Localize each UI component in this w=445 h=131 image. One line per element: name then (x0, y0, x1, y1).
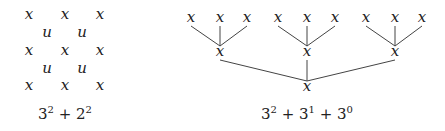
tree-leaf-node: x (418, 10, 426, 25)
tree-leaf-node: x (274, 10, 282, 25)
tree-leaf-node: x (331, 10, 339, 25)
caption-base: 2 (76, 105, 86, 123)
grid-node-x: x (96, 43, 104, 58)
grid-node-x: x (61, 78, 69, 93)
tree-leaf-node: x (391, 10, 399, 25)
tree-edge (220, 26, 247, 46)
right-caption: 32 + 31 + 30 (261, 104, 353, 123)
tree-leaf-node: x (303, 10, 311, 25)
tree-leaf-node: x (216, 10, 224, 25)
tree-edge (307, 60, 395, 81)
tree-leaf-node: x (362, 10, 370, 25)
caption-base: 3 (38, 105, 48, 123)
left-caption: 32 + 22 (38, 104, 92, 123)
tree-parent-node: x (216, 44, 224, 59)
grid-node-u: u (42, 61, 52, 76)
tree-parent-node: x (391, 44, 399, 59)
caption-base: 3 (261, 105, 271, 123)
grid-node-x: x (25, 7, 33, 22)
tree-edge (220, 60, 307, 81)
caption-base: 3 (299, 105, 309, 123)
caption-base: 3 (337, 105, 347, 123)
grid-node-x: x (96, 7, 104, 22)
tree-parent-node: x (303, 44, 311, 59)
grid-node-u: u (77, 25, 87, 40)
grid-node-x: x (61, 7, 69, 22)
caption-exponent: 0 (347, 104, 353, 115)
caption-plus: + (54, 105, 76, 123)
tree-leaf-node: x (187, 10, 195, 25)
grid-node-x: x (61, 43, 69, 58)
tree-leaf-node: x (243, 10, 251, 25)
grid-node-u: u (42, 25, 52, 40)
caption-plus: + (315, 105, 337, 123)
tree-edge (395, 26, 422, 46)
grid-node-x: x (96, 78, 104, 93)
tree-root-node: x (303, 79, 311, 94)
grid-node-u: u (77, 61, 87, 76)
caption-exponent: 2 (86, 104, 92, 115)
grid-node-x: x (25, 78, 33, 93)
grid-node-x: x (25, 43, 33, 58)
caption-plus: + (277, 105, 299, 123)
tree-edge (307, 26, 335, 46)
